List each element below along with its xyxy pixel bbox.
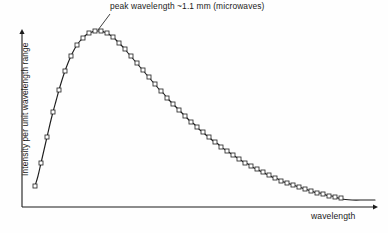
data-point-marker (123, 47, 127, 51)
data-point-marker (219, 145, 223, 149)
data-point-marker (231, 153, 235, 157)
data-point-marker (93, 29, 97, 33)
data-point-marker (249, 164, 253, 168)
blackbody-spectrum-figure: peak wavelength ~1.1 mm (microwaves) wav… (0, 0, 388, 233)
data-point-marker (195, 125, 199, 129)
data-point-marker (177, 108, 181, 112)
data-point-marker (339, 196, 343, 200)
spectrum-curve-tail (341, 199, 375, 200)
data-point-marker (75, 43, 79, 47)
data-point-marker (117, 41, 121, 45)
data-point-marker (153, 82, 157, 86)
plot-canvas (0, 0, 388, 233)
data-point-marker (81, 36, 85, 40)
data-point-marker (201, 130, 205, 134)
data-point-marker (63, 69, 67, 73)
x-axis-label: wavelength (311, 212, 355, 221)
series-group (33, 29, 375, 200)
data-point-marker (267, 173, 271, 177)
data-point-marker (147, 75, 151, 79)
data-point-marker (213, 140, 217, 144)
data-point-marker (285, 181, 289, 185)
annotation-group (98, 14, 110, 30)
data-point-marker (333, 195, 337, 199)
data-point-marker (303, 187, 307, 191)
data-point-marker (51, 110, 55, 114)
data-point-marker (207, 135, 211, 139)
data-point-marker (309, 189, 313, 193)
data-point-marker (111, 35, 115, 39)
data-point-marker (273, 176, 277, 180)
data-point-marker (171, 102, 175, 106)
data-point-marker (237, 157, 241, 161)
data-point-marker (39, 161, 43, 165)
data-point-marker (45, 135, 49, 139)
data-point-marker (225, 149, 229, 153)
data-point-marker (129, 54, 133, 58)
data-point-marker (261, 170, 265, 174)
data-point-marker (315, 191, 319, 195)
data-point-marker (135, 61, 139, 65)
peak-annotation-label: peak wavelength ~1.1 mm (microwaves) (110, 2, 264, 10)
data-point-marker (189, 120, 193, 124)
data-point-marker (297, 185, 301, 189)
data-point-marker (159, 89, 163, 93)
y-axis-label: Intensity per unit wavelength range (21, 24, 29, 194)
spectrum-curve (35, 31, 341, 198)
data-point-marker (87, 31, 91, 35)
data-point-marker (327, 194, 331, 198)
data-point-marker (99, 29, 103, 33)
data-point-marker (183, 114, 187, 118)
data-point-marker (33, 184, 37, 188)
x-axis-arrowhead (373, 204, 378, 209)
data-point-marker (69, 54, 73, 58)
data-point-markers (33, 29, 343, 200)
data-point-marker (165, 96, 169, 100)
data-point-marker (321, 192, 325, 196)
data-point-marker (255, 167, 259, 171)
data-point-marker (105, 31, 109, 35)
data-point-marker (243, 161, 247, 165)
data-point-marker (279, 179, 283, 183)
data-point-marker (291, 183, 295, 187)
data-point-marker (57, 88, 61, 92)
peak-leader-line (98, 14, 110, 30)
data-point-marker (141, 68, 145, 72)
